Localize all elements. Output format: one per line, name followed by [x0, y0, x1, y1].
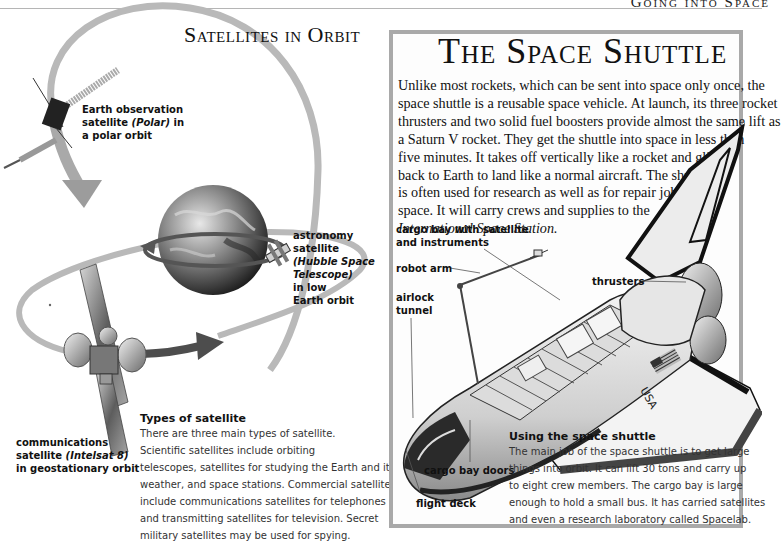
cargo-bay-label: cargo bay with satellite and instruments	[396, 223, 529, 249]
using-heading: Using the space shuttle	[509, 430, 739, 443]
robot-arm-label: robot arm	[396, 262, 452, 275]
payload-satellite	[530, 250, 548, 258]
flight-deck-label: flight deck	[416, 497, 476, 510]
shuttle-tail-fin	[628, 128, 742, 282]
cargo-bay-doors-label: cargo bay doors	[424, 464, 515, 477]
thrusters-label: thrusters	[592, 275, 644, 288]
airlock-tunnel-label: airlock tunnel	[396, 291, 434, 317]
using-space-shuttle-section: Using the space shuttle The main job of …	[509, 430, 739, 528]
